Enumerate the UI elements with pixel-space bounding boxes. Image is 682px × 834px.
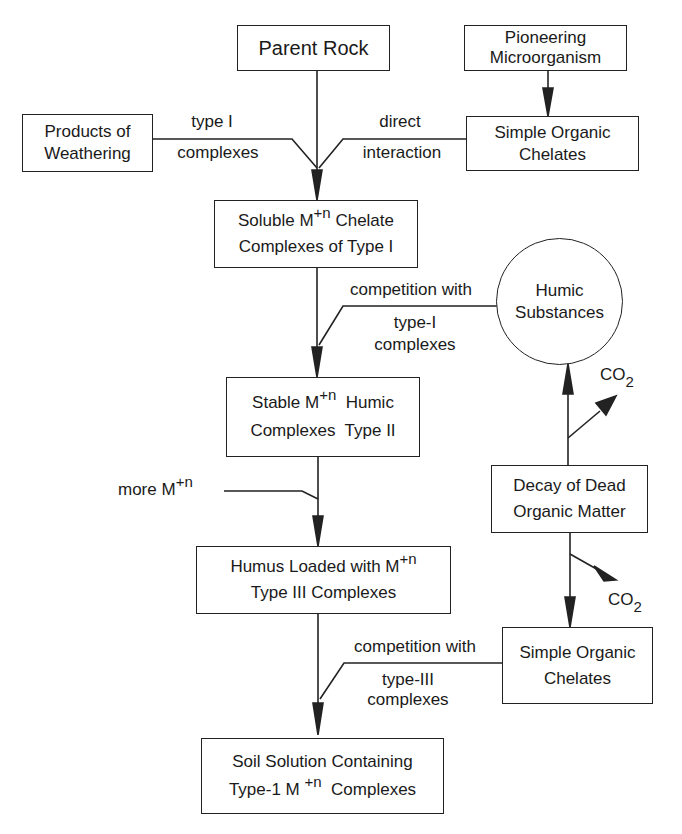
label-type1-bottom: complexes <box>168 143 268 163</box>
node-parent-rock: Parent Rock <box>237 25 390 71</box>
label-more-m: more M+n <box>118 480 224 500</box>
arrowhead-down-icon <box>312 170 322 200</box>
label-competition1-bottom2: complexes <box>365 335 465 355</box>
node-soluble-chelate-type1: Soluble M+n Chelate Complexes of Type I <box>214 200 418 268</box>
node-products-of-weathering: Products of Weathering <box>22 114 153 172</box>
node-decay-dead-organic-matter: Decay of Dead Organic Matter <box>491 465 648 533</box>
node-soil-solution-type1: Soil Solution Containing Type-1 M +n Com… <box>201 738 444 814</box>
arrowhead-down-icon <box>543 88 553 116</box>
label-direct-top: direct <box>370 112 430 132</box>
arrowhead-down-icon <box>313 516 323 546</box>
label-competition1-top: competition with <box>336 280 486 300</box>
node-simple-organic-chelates-top: Simple Organic Chelates <box>466 116 639 171</box>
label-co2-lower: CO2 <box>608 590 668 610</box>
co2-arrowhead-icon <box>594 566 616 581</box>
node-humic-substances: Humic Substances <box>496 238 623 365</box>
node-pioneering-microorganism: Pioneering Microorganism <box>464 25 627 71</box>
label-competition1-bottom1: type-I <box>375 313 455 333</box>
arrowhead-up-icon <box>563 364 573 394</box>
arrowhead-down-icon <box>565 597 575 627</box>
node-humus-loaded-type3: Humus Loaded with M+n Type III Complexes <box>196 546 451 614</box>
more-m-connector <box>224 491 318 499</box>
soil-metal-complex-flow-diagram: Parent Rock Pioneering Microorganism Pro… <box>0 0 682 834</box>
arrowhead-down-icon <box>313 703 323 735</box>
label-type1-top: type I <box>182 112 242 132</box>
label-direct-bottom: interaction <box>352 143 452 163</box>
label-competition2-bottom2: complexes <box>358 690 458 710</box>
label-co2-upper: CO2 <box>600 365 660 385</box>
arrowhead-down-icon <box>312 347 322 377</box>
label-competition2-top: competition with <box>340 637 490 657</box>
label-competition2-bottom1: type-III <box>368 670 448 690</box>
node-stable-humic-type2: Stable M+n Humic Complexes Type II <box>226 377 420 457</box>
node-simple-organic-chelates-bottom: Simple Organic Chelates <box>502 627 653 704</box>
